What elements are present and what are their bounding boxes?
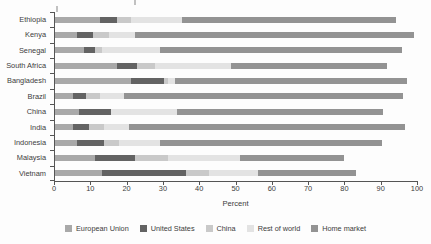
bar-segment-home-market [175, 78, 407, 84]
cropped-text-artifact [134, 0, 136, 5]
bar-segment-united-states [102, 170, 185, 176]
stacked-bar [55, 78, 418, 84]
legend-item: Rest of world [247, 224, 301, 233]
bar-segment-china [117, 17, 132, 23]
bar-segment-rest-of-world [104, 124, 129, 130]
legend-label: United States [151, 224, 195, 233]
bar-row [55, 89, 418, 104]
legend-item: United States [140, 224, 195, 233]
x-axis-tick-label: 10 [86, 184, 94, 193]
category-label: Brazil [0, 89, 50, 104]
bar-segment-china [137, 63, 155, 69]
bar-segment-china [89, 124, 104, 130]
legend-label: European Union [76, 224, 129, 233]
bar-segment-china [93, 32, 109, 38]
legend-label: Home market [322, 224, 366, 233]
stacked-bar [55, 32, 418, 38]
category-label: Vietnam [0, 166, 50, 181]
x-axis-tick-label: 100 [411, 184, 423, 193]
bar-segment-home-market [124, 93, 404, 99]
category-label: Indonesia [0, 135, 50, 150]
bar-segment-rest-of-world [131, 17, 182, 23]
legend-swatch-icon [65, 225, 72, 232]
bar-segment-home-market [177, 109, 384, 115]
legend-item: Home market [311, 224, 366, 233]
legend-label: Rest of world [258, 224, 301, 233]
bar-segment-united-states [73, 93, 86, 99]
bar-segment-european-union [55, 47, 84, 53]
x-axis-tick-label: 40 [195, 184, 203, 193]
x-axis-tick-label: 0 [52, 184, 56, 193]
bar-segment-united-states [84, 47, 95, 53]
y-axis-category-labels: EthiopiaKenyaSenegalSouth AfricaBanglade… [0, 12, 50, 181]
bar-segment-home-market [240, 155, 343, 161]
bar-row [55, 73, 418, 88]
bar-segment-rest-of-world [209, 170, 258, 176]
category-label: Bangladesh [0, 73, 50, 88]
bar-segment-european-union [55, 93, 73, 99]
bar-segment-home-market [160, 47, 401, 53]
category-label: China [0, 104, 50, 119]
y-axis-tick [50, 135, 54, 136]
category-label: South Africa [0, 58, 50, 73]
stacked-bar [55, 109, 418, 115]
x-axis-tick-label: 20 [122, 184, 130, 193]
bar-segment-united-states [95, 155, 135, 161]
bar-segment-china [95, 47, 102, 53]
y-axis-tick [50, 120, 54, 121]
legend-swatch-icon [206, 225, 213, 232]
stacked-bar [55, 63, 418, 69]
x-axis-tick-label: 50 [231, 184, 239, 193]
bar-segment-china [186, 170, 210, 176]
bar-segment-rest-of-world [109, 32, 134, 38]
x-axis-tick-labels: 0102030405060708090100 [54, 184, 417, 194]
bar-segment-rest-of-world [102, 47, 160, 53]
y-axis-tick [50, 43, 54, 44]
legend-swatch-icon [311, 225, 318, 232]
bar-segment-home-market [231, 63, 387, 69]
category-label: Senegal [0, 43, 50, 58]
bar-row [55, 150, 418, 165]
x-axis-tick-label: 70 [304, 184, 312, 193]
bar-segment-china [86, 93, 101, 99]
bar-row [55, 43, 418, 58]
bar-segment-united-states [79, 109, 112, 115]
bar-segment-rest-of-world [168, 78, 175, 84]
bar-row [55, 135, 418, 150]
bar-segment-home-market [129, 124, 405, 130]
y-axis-tick [50, 166, 54, 167]
bar-segment-european-union [55, 124, 73, 130]
category-label: Ethiopia [0, 12, 50, 27]
y-axis-tick [50, 104, 54, 105]
legend-label: China [217, 224, 236, 233]
stacked-bar [55, 155, 418, 161]
stacked-bar [55, 47, 418, 53]
bar-row [55, 58, 418, 73]
bar-segment-united-states [131, 78, 164, 84]
bar-segment-european-union [55, 17, 100, 23]
bar-segment-rest-of-world [100, 93, 124, 99]
legend-item: China [206, 224, 236, 233]
bar-segment-european-union [55, 170, 102, 176]
y-axis-tick [50, 180, 54, 181]
bar-segment-united-states [77, 140, 104, 146]
x-axis-tick-label: 30 [159, 184, 167, 193]
bar-segment-home-market [135, 32, 415, 38]
x-axis-tick-label: 90 [377, 184, 385, 193]
bar-row [55, 12, 418, 27]
legend-swatch-icon [140, 225, 147, 232]
bar-row [55, 120, 418, 135]
legend-item: European Union [65, 224, 129, 233]
bar-row [55, 104, 418, 119]
category-label: Kenya [0, 27, 50, 42]
bar-segment-united-states [100, 17, 116, 23]
stacked-bar [55, 93, 418, 99]
bar-segment-european-union [55, 140, 77, 146]
plot-area [54, 12, 418, 182]
bar-segment-china [104, 140, 119, 146]
bar-segment-united-states [117, 63, 137, 69]
bar-row [55, 166, 418, 181]
y-axis-tick [50, 89, 54, 90]
stacked-bar-chart: EthiopiaKenyaSenegalSouth AfricaBanglade… [0, 0, 431, 244]
bar-segment-home-market [182, 17, 396, 23]
